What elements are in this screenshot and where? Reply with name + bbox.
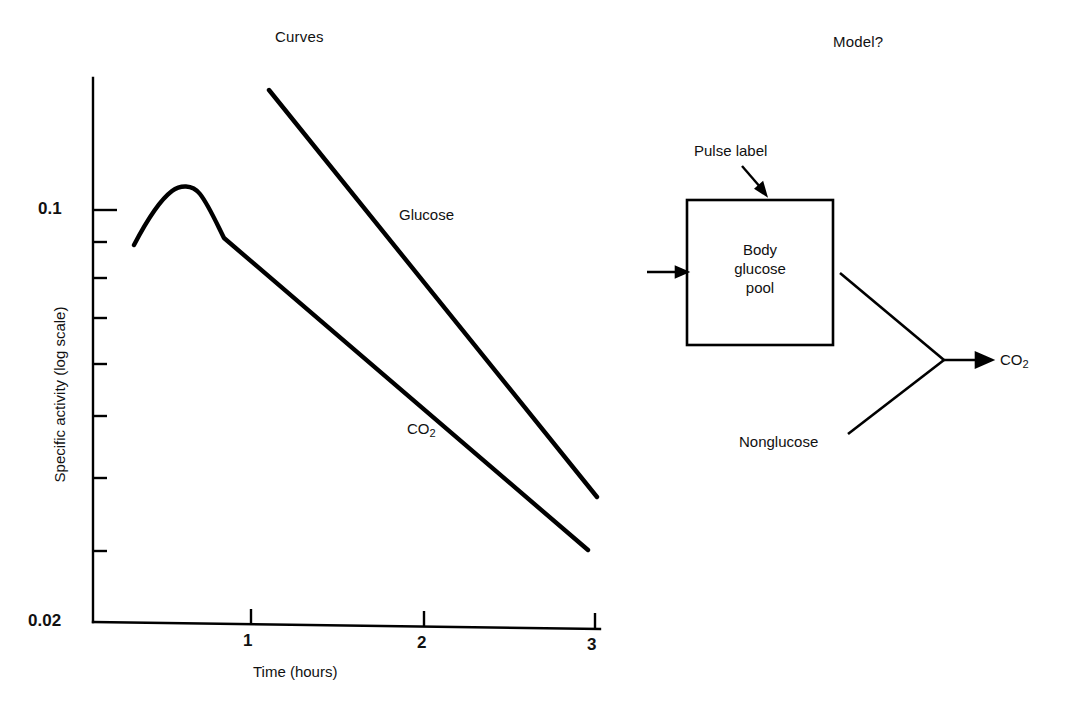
nonglucose-to-junction-line (848, 360, 944, 434)
chart-axes (93, 78, 600, 629)
box-label-line-3: pool (687, 278, 833, 297)
x-axis-tick-label-1: 1 (243, 631, 252, 651)
box-label-line-1: Body (687, 240, 833, 259)
series-label-co2-subscript: 2 (430, 427, 436, 439)
x-axis-tick-label-2: 2 (417, 633, 426, 653)
input-arrow (647, 267, 687, 277)
y-minor-ticks (93, 242, 107, 551)
pulse-label-arrow (742, 166, 766, 195)
junction-to-co2-arrow (944, 353, 992, 367)
series-label-glucose: Glucose (399, 206, 454, 223)
body-glucose-pool-label: Body glucose pool (687, 240, 833, 297)
series-co2-curve (134, 186, 588, 550)
nonglucose-label-text: Nonglucose (739, 433, 818, 450)
x-axis-title: Time (hours) (253, 663, 337, 680)
y-axis-title: Specific activity (log scale) (51, 270, 68, 520)
co2-output-label-text: CO (1000, 351, 1023, 368)
y-axis-tick-label-0.02: 0.02 (28, 611, 61, 631)
series-label-co2-text: CO (407, 420, 430, 437)
pulse-label-text: Pulse label (694, 142, 767, 159)
x-axis-tick-label-3: 3 (587, 635, 596, 655)
figure-vector-layer (0, 0, 1065, 713)
glucose-to-junction-line (840, 273, 944, 360)
co2-output-label-subscript: 2 (1023, 358, 1029, 370)
series-label-co2: CO2 (407, 420, 436, 439)
box-label-line-2: glucose (687, 259, 833, 278)
co2-output-label: CO2 (1000, 351, 1029, 370)
y-axis-tick-label-0.1: 0.1 (38, 199, 62, 219)
x-axis-line (93, 622, 600, 629)
figure-root: Curves Model? (0, 0, 1065, 713)
